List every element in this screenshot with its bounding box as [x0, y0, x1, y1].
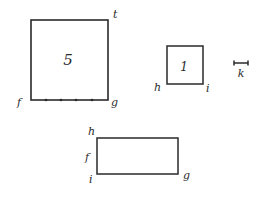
rect-label-g: g: [183, 169, 190, 182]
label-g: g: [111, 96, 118, 109]
rectangle: h f i g: [84, 125, 190, 186]
label-k: k: [238, 67, 245, 80]
diagram-canvas: 5 t f g 1 h i k h f i g: [0, 0, 264, 197]
rect-label-i: i: [89, 173, 93, 186]
big-square: 5 t f g: [16, 8, 118, 109]
small-square: 1 h i: [154, 46, 210, 95]
rect-label-h: h: [88, 125, 95, 138]
rectangle-outline: [97, 138, 178, 174]
small-square-number: 1: [180, 60, 188, 74]
label-f: f: [16, 96, 23, 109]
label-i: i: [206, 82, 210, 95]
rect-label-f: f: [84, 151, 91, 164]
scale-bar: k: [234, 61, 248, 81]
label-h: h: [154, 81, 161, 94]
label-t: t: [113, 8, 118, 21]
big-square-number: 5: [63, 51, 73, 69]
